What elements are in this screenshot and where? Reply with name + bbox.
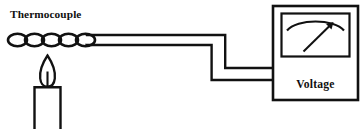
lead-wire-lower bbox=[91, 45, 272, 80]
lead-wire-upper bbox=[91, 35, 272, 68]
lead-wire-taper-lower bbox=[85, 44, 95, 46]
meter-needle bbox=[304, 25, 331, 52]
meter-scale-arc bbox=[287, 22, 344, 31]
thermocouple-label: Thermocouple bbox=[10, 8, 82, 20]
voltage-label: Voltage bbox=[296, 78, 334, 91]
lead-wire-taper-upper bbox=[85, 34, 95, 36]
twin-lead-wire bbox=[85, 34, 272, 80]
meter-dial-frame bbox=[282, 14, 350, 57]
thermocouple-figure: Thermocouple bbox=[0, 0, 363, 129]
candle-body bbox=[35, 87, 61, 129]
diagram-canvas: Thermocouple bbox=[0, 0, 363, 129]
candle bbox=[35, 56, 61, 130]
voltmeter: Voltage bbox=[273, 6, 358, 100]
thermocouple-coil bbox=[8, 34, 95, 46]
